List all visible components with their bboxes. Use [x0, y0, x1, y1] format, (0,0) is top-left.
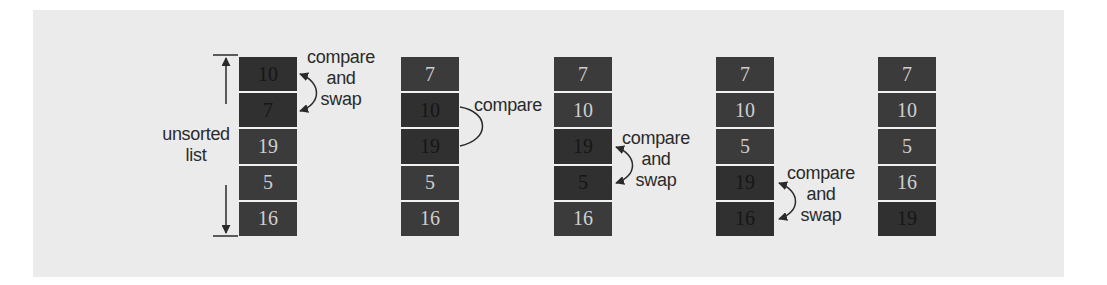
annotation-line: and [306, 68, 376, 89]
compare-swap-label-1: compare and swap [306, 47, 376, 110]
list-cell: 16 [554, 202, 612, 236]
list-cell: 5 [401, 166, 459, 202]
annotation-line: and [785, 184, 857, 205]
annotation-line: compare [785, 163, 857, 184]
annotation-line: swap [620, 170, 692, 191]
list-cell: 19 [554, 129, 612, 165]
list-cell: 19 [239, 129, 297, 165]
list-column-3: 7 10 19 5 16 [554, 57, 612, 236]
annotation-line: compare [306, 47, 376, 68]
list-cell: 10 [878, 93, 936, 129]
list-cell: 19 [401, 129, 459, 165]
list-cell: 5 [716, 129, 774, 165]
list-cell: 7 [554, 57, 612, 93]
list-cell: 16 [239, 202, 297, 236]
list-cell: 7 [716, 57, 774, 93]
list-cell: 19 [878, 202, 936, 236]
list-cell: 5 [878, 129, 936, 165]
compare-swap-label-4: compare and swap [785, 163, 857, 226]
list-cell: 10 [716, 93, 774, 129]
compare-swap-label-3: compare and swap [620, 128, 692, 191]
annotation-line: compare [470, 95, 546, 116]
list-cell: 10 [239, 57, 297, 93]
list-cell: 16 [878, 166, 936, 202]
list-cell: 16 [716, 202, 774, 236]
list-cell: 7 [401, 57, 459, 93]
list-cell: 5 [554, 166, 612, 202]
annotation-line: swap [785, 205, 857, 226]
unsorted-list-label: unsorted list [156, 124, 236, 166]
side-label-line2: list [156, 145, 236, 166]
side-label-line1: unsorted [156, 124, 236, 145]
list-cell: 16 [401, 202, 459, 236]
list-column-2: 7 10 19 5 16 [401, 57, 459, 236]
list-cell: 7 [878, 57, 936, 93]
annotation-line: and [620, 149, 692, 170]
list-cell: 19 [716, 166, 774, 202]
compare-label-2: compare [470, 95, 546, 116]
annotation-line: swap [306, 89, 376, 110]
list-cell: 10 [401, 93, 459, 129]
list-column-5-sorted-pass: 7 10 5 16 19 [878, 57, 936, 236]
annotation-line: compare [620, 128, 692, 149]
list-column-1: 10 7 19 5 16 [239, 57, 297, 236]
list-cell: 7 [239, 93, 297, 129]
list-column-4: 7 10 5 19 16 [716, 57, 774, 236]
list-cell: 10 [554, 93, 612, 129]
list-cell: 5 [239, 166, 297, 202]
